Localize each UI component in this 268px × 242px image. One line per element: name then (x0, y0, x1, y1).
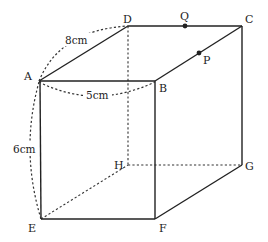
dimension-AB-label: 5cm (86, 89, 109, 101)
dimension-AD-label: 8cm (65, 34, 88, 46)
cuboid-diagram: A B C D E F G H Q P 8cm 5cm 6cm (0, 0, 268, 242)
dimension-AE-label: 6cm (13, 143, 36, 155)
edge-FG (155, 165, 242, 219)
vertex-E-label: E (28, 222, 36, 235)
vertex-G-label: G (245, 160, 254, 173)
point-Q-marker (183, 24, 188, 29)
vertex-H-label: H (114, 159, 124, 172)
edge-AE (40, 81, 41, 219)
hidden-edges (41, 26, 242, 219)
vertex-C-label: C (245, 13, 253, 26)
visible-edges (39, 26, 242, 219)
vertex-B-label: B (159, 82, 167, 95)
point-Q-label: Q (180, 10, 189, 23)
vertex-F-label: F (159, 222, 167, 235)
edge-EH (41, 165, 128, 219)
dimension-arcs (30, 26, 155, 219)
vertex-A-label: A (23, 70, 33, 83)
vertex-D-label: D (123, 13, 132, 26)
point-P-marker (197, 51, 202, 56)
point-P-label: P (203, 54, 211, 67)
